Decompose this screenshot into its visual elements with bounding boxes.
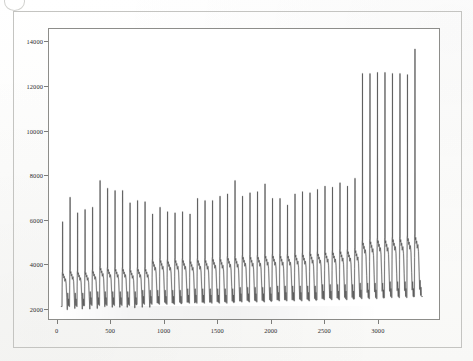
y-tick-label: 12000	[27, 82, 43, 89]
y-tick-label: 8000	[30, 172, 43, 179]
plot-area-frame	[48, 28, 440, 320]
scanned-figure-page: 2000400060008000100001200014000 05001000…	[0, 0, 473, 361]
x-tick-mark	[164, 320, 165, 324]
y-tick-label: 2000	[30, 305, 43, 312]
x-tick-label: 0	[55, 327, 58, 334]
x-tick-mark	[110, 320, 111, 324]
x-tick-mark	[57, 320, 58, 324]
x-tick-mark	[271, 320, 272, 324]
y-tick-mark	[44, 220, 48, 221]
x-tick-mark	[217, 320, 218, 324]
circle-annotation-icon	[4, 0, 25, 11]
y-tick-mark	[44, 86, 48, 87]
y-tick-mark	[44, 41, 48, 42]
x-tick-label: 3000	[371, 327, 384, 334]
x-tick-label: 500	[105, 327, 115, 334]
y-axis-tick-labels: 2000400060008000100001200014000	[16, 28, 43, 320]
x-axis-tick-labels: 050010001500200025003000	[0, 327, 473, 339]
y-tick-label: 6000	[30, 216, 43, 223]
x-tick-mark	[324, 320, 325, 324]
y-tick-label: 4000	[30, 261, 43, 268]
y-tick-mark	[44, 175, 48, 176]
x-tick-label: 1500	[211, 327, 224, 334]
series-signal	[61, 49, 422, 310]
y-tick-label: 10000	[27, 127, 43, 134]
x-tick-label: 1000	[157, 327, 170, 334]
chart-canvas	[49, 29, 441, 321]
y-tick-mark	[44, 264, 48, 265]
y-tick-mark	[44, 309, 48, 310]
x-tick-label: 2000	[264, 327, 277, 334]
y-tick-label: 14000	[27, 38, 43, 45]
y-tick-mark	[44, 131, 48, 132]
x-tick-mark	[378, 320, 379, 324]
x-tick-label: 2500	[318, 327, 331, 334]
